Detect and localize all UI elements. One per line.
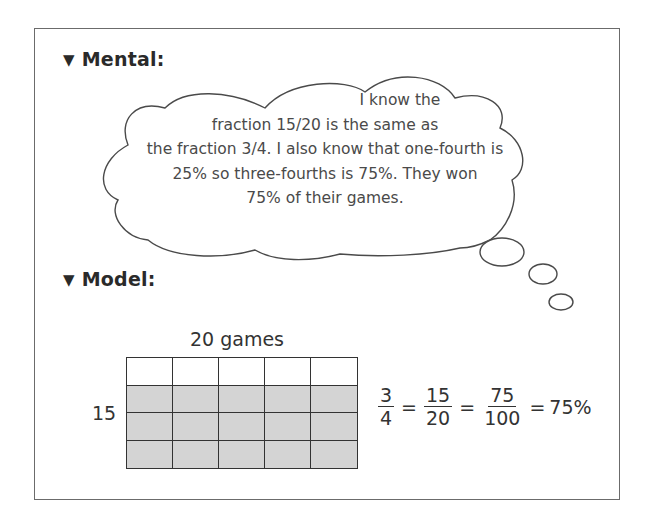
model-heading: ▼Model:	[63, 268, 156, 290]
grid-top-label: 20 games	[190, 328, 284, 350]
grid-cell-shaded	[311, 441, 357, 469]
grid-cell-shaded	[265, 441, 311, 469]
thought-line: the fraction 3/4. I also know that one-f…	[120, 137, 530, 162]
grid-cell-empty	[265, 358, 311, 386]
grid-cell-shaded	[265, 413, 311, 441]
equals-sign: =	[529, 396, 545, 418]
grid-cell-shaded	[127, 413, 173, 441]
fraction-75-100: 75 100	[482, 384, 522, 429]
model-heading-text: Model:	[82, 268, 156, 290]
equals-sign: =	[459, 396, 475, 418]
grid-cell-empty	[311, 358, 357, 386]
thought-bubble-medium	[529, 264, 557, 284]
numerator: 15	[424, 384, 452, 407]
thought-bubble-large	[480, 238, 524, 266]
numerator: 3	[378, 384, 394, 407]
grid-cell-shaded	[173, 441, 219, 469]
grid-cell-empty	[219, 358, 265, 386]
grid-cell-shaded	[173, 386, 219, 414]
grid-cell-shaded	[265, 386, 311, 414]
denominator: 20	[424, 407, 452, 429]
triangle-bullet-icon: ▼	[63, 271, 75, 289]
percent-result: 75%	[549, 396, 591, 418]
equals-sign: =	[401, 396, 417, 418]
thought-line: I know the	[120, 88, 530, 113]
grid-cell-shaded	[219, 386, 265, 414]
thought-line: fraction 15/20 is the same as	[120, 113, 530, 138]
thought-line: 75% of their games.	[120, 186, 530, 211]
grid-cell-empty	[173, 358, 219, 386]
numerator: 75	[488, 384, 516, 407]
grid-side-label: 15	[92, 402, 116, 424]
denominator: 4	[378, 407, 394, 429]
thought-text: I know the fraction 15/20 is the same as…	[120, 88, 530, 211]
grid-cell-shaded	[173, 413, 219, 441]
grid-cell-empty	[127, 358, 173, 386]
fraction-3-4: 3 4	[378, 384, 394, 429]
fraction-equation: 3 4 = 15 20 = 75 100 = 75%	[375, 384, 592, 429]
fraction-15-20: 15 20	[424, 384, 452, 429]
thought-bubble-small	[549, 294, 573, 310]
grid-cell-shaded	[219, 441, 265, 469]
grid-cell-shaded	[127, 441, 173, 469]
grid-cell-shaded	[311, 413, 357, 441]
denominator: 100	[482, 407, 522, 429]
thought-line: 25% so three-fourths is 75%. They won	[120, 162, 530, 187]
grid-cell-shaded	[219, 413, 265, 441]
grid-cell-shaded	[311, 386, 357, 414]
grid-cell-shaded	[127, 386, 173, 414]
fraction-grid-model	[126, 357, 358, 469]
